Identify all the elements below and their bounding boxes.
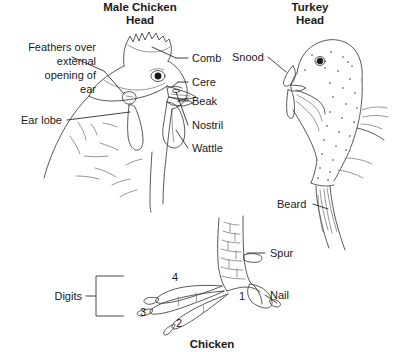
digit-number-1: 1 [239,290,245,302]
label-feathers-line4: ear [80,83,96,95]
label-beard: Beard [277,198,306,210]
turkey-eye-pupil [317,58,323,64]
figure-caption: Chicken [190,338,235,350]
label-wattle: Wattle [192,142,223,154]
digit-number-2: 2 [176,317,182,329]
label-comb: Comb [192,52,221,64]
anatomy-figure: Male Chicken Head Turkey Head [0,0,394,352]
eye-pupil [155,73,161,79]
turkey-head-title-line1: Turkey [292,1,329,13]
label-beak: Beak [192,95,218,107]
figure-canvas: Male Chicken Head Turkey Head [0,0,394,352]
label-nail: Nail [270,289,289,301]
label-feathers-line3: opening of [45,69,97,81]
label-digits: Digits [54,290,82,302]
label-spur: Spur [270,247,294,259]
label-nostril: Nostril [192,119,223,131]
chicken-head-title-line2: Head [126,14,154,26]
digit-number-4: 4 [172,271,178,283]
turkey-head-title-line2: Head [296,14,324,26]
label-cere: Cere [192,76,216,88]
label-ear-lobe: Ear lobe [21,114,62,126]
label-feathers-line1: Feathers over [28,41,96,53]
digit-number-3: 3 [140,306,146,318]
chicken-head-title-line1: Male Chicken [103,1,177,13]
label-snood: Snood [232,51,264,63]
